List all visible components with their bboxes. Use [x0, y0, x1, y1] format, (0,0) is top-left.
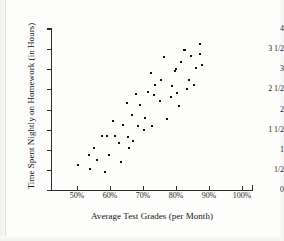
- x-tick-label: 50%: [60, 192, 94, 200]
- data-point: [96, 159, 98, 161]
- y-tick: [47, 69, 51, 70]
- data-point: [128, 147, 130, 149]
- data-point: [88, 154, 90, 156]
- data-point: [118, 142, 120, 144]
- data-point: [127, 136, 129, 138]
- data-point: [163, 56, 165, 58]
- y-tick-label: 4: [238, 25, 284, 33]
- data-point: [114, 135, 116, 137]
- data-point: [159, 100, 161, 102]
- y-tick: [47, 170, 51, 171]
- plot-area: 01/211 1/222 1/233 1/24 50%60%70%80%90%1…: [0, 0, 284, 241]
- data-point: [151, 125, 153, 127]
- scatter-plot-screenshot: 01/211 1/222 1/233 1/24 50%60%70%80%90%1…: [0, 0, 284, 241]
- data-point: [166, 118, 168, 120]
- data-point: [122, 124, 124, 126]
- y-tick-label: 3: [238, 65, 284, 73]
- y-tick: [47, 110, 51, 111]
- data-point: [147, 91, 149, 93]
- y-axis-title: Time Spent Nightly on Homework (in Hours…: [26, 6, 36, 206]
- data-point: [150, 72, 152, 74]
- x-tick: [110, 186, 111, 190]
- x-tick-label: 60%: [93, 192, 127, 200]
- data-point: [135, 93, 137, 95]
- data-point: [131, 114, 133, 116]
- data-point: [193, 84, 195, 86]
- data-point: [120, 161, 122, 163]
- data-point: [93, 147, 95, 149]
- data-point: [143, 129, 145, 131]
- data-point: [195, 67, 197, 69]
- x-tick-label: 100%: [225, 192, 259, 200]
- data-point: [190, 55, 192, 57]
- x-tick: [176, 186, 177, 190]
- data-point: [137, 125, 139, 127]
- y-axis-line: [51, 28, 52, 191]
- data-point: [108, 154, 110, 156]
- y-tick-label: 1 1/2: [238, 126, 284, 134]
- data-point: [188, 79, 190, 81]
- y-tick: [47, 130, 51, 131]
- x-tick-label: 90%: [192, 192, 226, 200]
- y-tick: [47, 89, 51, 90]
- data-point: [132, 140, 134, 142]
- data-point: [154, 84, 156, 86]
- x-axis-title: Average Test Grades (per Month): [40, 211, 264, 221]
- x-tick-label: 80%: [159, 192, 193, 200]
- y-tick: [47, 150, 51, 151]
- y-tick: [47, 190, 51, 191]
- data-point: [77, 164, 79, 166]
- data-point: [104, 171, 106, 173]
- data-point: [170, 96, 172, 98]
- data-point: [171, 85, 173, 87]
- data-point: [126, 102, 128, 104]
- x-tick: [209, 186, 210, 190]
- x-tick: [77, 186, 78, 190]
- data-point: [89, 168, 91, 170]
- y-tick-label: 1/2: [238, 166, 284, 174]
- data-point: [139, 104, 141, 106]
- data-point: [175, 68, 177, 70]
- data-point: [144, 117, 146, 119]
- y-tick: [47, 29, 51, 30]
- data-point: [201, 64, 203, 66]
- data-point: [153, 94, 155, 96]
- data-point: [184, 49, 186, 51]
- data-point: [101, 135, 103, 137]
- data-point: [186, 88, 188, 90]
- y-tick-label: 2 1/2: [238, 85, 284, 93]
- y-tick-label: 1: [238, 146, 284, 154]
- data-point: [180, 61, 182, 63]
- data-point: [106, 135, 108, 137]
- y-tick-label: 2: [238, 106, 284, 114]
- x-tick-label: 70%: [126, 192, 160, 200]
- data-point: [199, 43, 201, 45]
- y-tick: [47, 49, 51, 50]
- y-tick-label: 3 1/2: [238, 45, 284, 53]
- data-point: [112, 120, 114, 122]
- data-point: [176, 92, 178, 94]
- x-tick: [143, 186, 144, 190]
- data-point: [178, 105, 180, 107]
- data-point: [199, 53, 201, 55]
- data-point: [160, 79, 162, 81]
